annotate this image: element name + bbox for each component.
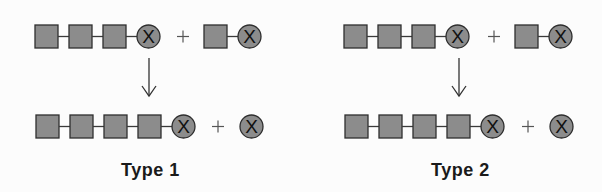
type-2-label: Type 2	[431, 160, 490, 181]
x-glyph-icon: X	[177, 116, 190, 137]
panel-1-product-1-unit-square	[70, 115, 93, 138]
reaction-diagram: XXXXXXXX	[0, 0, 602, 192]
x-glyph-icon: X	[243, 26, 256, 47]
panel-2-product-1-unit-square	[345, 115, 368, 138]
panel-2-reactant-1-unit-square	[344, 25, 367, 48]
panel-2-reactant-2-unit-square	[515, 25, 538, 48]
panel-2-product-1-unit-square	[447, 115, 470, 138]
panel-2-product-1-unit-square	[413, 115, 436, 138]
panel-1-reactant-1-unit-square	[103, 25, 126, 48]
x-glyph-icon: X	[554, 26, 567, 47]
panel-2-product-1-unit-square	[379, 115, 402, 138]
panel-2-reactant-1-unit-square	[378, 25, 401, 48]
panel-2-reactant-1-unit-square	[412, 25, 435, 48]
panel-1-product-1-unit-square	[104, 115, 127, 138]
x-glyph-icon: X	[555, 116, 568, 137]
panel-1-reactant-1-unit-square	[35, 25, 58, 48]
panel-1-product-1-unit-square	[138, 115, 161, 138]
panel-1-product-1-unit-square	[36, 115, 59, 138]
x-glyph-icon: X	[142, 26, 155, 47]
type-1-label: Type 1	[121, 160, 180, 181]
x-glyph-icon: X	[451, 26, 464, 47]
panel-1-reactant-2-unit-square	[204, 25, 227, 48]
x-glyph-icon: X	[245, 116, 258, 137]
panel-1-reactant-1-unit-square	[69, 25, 92, 48]
x-glyph-icon: X	[486, 116, 499, 137]
